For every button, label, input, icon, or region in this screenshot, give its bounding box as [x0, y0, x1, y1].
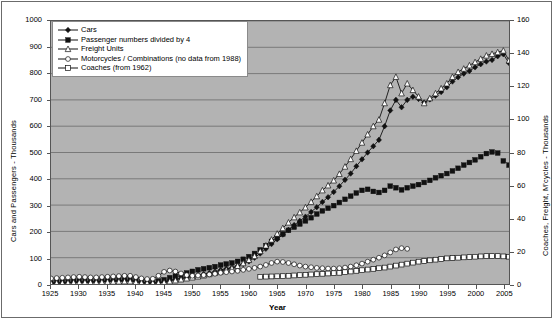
y-axis-left-tick-label: 300	[8, 201, 42, 211]
y-axis-left-tick-label: 400	[8, 174, 42, 184]
y-axis-right-tick-mark	[510, 86, 514, 87]
x-axis-tick-mark	[448, 285, 449, 289]
y-axis-left-tick-label: 900	[8, 42, 42, 52]
y-axis-right-tick-mark	[510, 186, 514, 187]
y-axis-right-tick-mark	[510, 20, 514, 21]
x-axis-tick-mark	[220, 285, 221, 289]
legend-item-label: Passenger numbers divided by 4	[81, 35, 190, 45]
legend-item: Passenger numbers divided by 4	[57, 35, 241, 45]
legend-item: Coaches (from 1962)	[57, 63, 241, 73]
x-axis-tick-mark	[50, 285, 51, 289]
legend-item-label: Cars	[81, 25, 97, 35]
x-axis-title: Year	[0, 303, 555, 312]
y-axis-right-tick-label: 140	[517, 48, 551, 58]
legend: CarsPassenger numbers divided by 4Freigh…	[52, 21, 248, 77]
y-axis-right-tick-label: 100	[517, 114, 551, 124]
x-axis-tick-mark	[107, 285, 108, 289]
y-axis-right-tick-mark	[510, 219, 514, 220]
legend-item-label: Freight Units	[81, 44, 124, 54]
y-axis-right-tick-label: 160	[517, 15, 551, 25]
y-axis-right-tick-label: 80	[517, 148, 551, 158]
x-axis-tick-mark	[391, 285, 392, 289]
x-axis-tick-label: 2005	[484, 289, 524, 299]
x-axis-tick-mark	[164, 285, 165, 289]
y-axis-left-tick-label: 500	[8, 148, 42, 158]
x-axis-tick-mark	[78, 285, 79, 289]
legend-marker-open-square-icon	[57, 63, 79, 73]
x-axis-tick-mark	[306, 285, 307, 289]
y-axis-right-tick-mark	[510, 153, 514, 154]
y-axis-right-tick-mark	[510, 285, 514, 286]
y-axis-left-tick-label: 100	[8, 254, 42, 264]
y-axis-right-tick-label: 120	[517, 81, 551, 91]
legend-marker-filled-square-icon	[57, 35, 79, 45]
y-axis-left-tick-label: 800	[8, 68, 42, 78]
y-axis-left-tick-label: 600	[8, 121, 42, 131]
x-axis-tick-mark	[504, 285, 505, 289]
legend-item: Motorcycles / Combinations (no data from…	[57, 54, 241, 64]
x-axis-tick-mark	[249, 285, 250, 289]
y-axis-right-tick-mark	[510, 119, 514, 120]
legend-marker-open-circle-icon	[57, 54, 79, 64]
y-axis-right-tick-mark	[510, 252, 514, 253]
x-axis-tick-mark	[192, 285, 193, 289]
x-axis-tick-mark	[419, 285, 420, 289]
x-axis-tick-mark	[362, 285, 363, 289]
x-axis-tick-mark	[277, 285, 278, 289]
legend-item: Freight Units	[57, 44, 241, 54]
y-axis-left-tick-label: 200	[8, 227, 42, 237]
legend-item-label: Coaches (from 1962)	[81, 63, 151, 73]
x-axis-tick-mark	[476, 285, 477, 289]
y-axis-left-tick-label: 1000	[8, 15, 42, 25]
legend-item-label: Motorcycles / Combinations (no data from…	[81, 54, 241, 64]
y-axis-right-tick-mark	[510, 53, 514, 54]
chart-root: Cars and Passengers - Thousands Coaches,…	[0, 0, 555, 321]
legend-item: Cars	[57, 25, 241, 35]
legend-marker-open-triangle-icon	[57, 44, 79, 54]
y-axis-right-tick-label: 40	[517, 214, 551, 224]
y-axis-right-tick-label: 20	[517, 247, 551, 257]
x-axis-tick-mark	[334, 285, 335, 289]
y-axis-right-tick-label: 60	[517, 181, 551, 191]
y-axis-left-tick-label: 700	[8, 95, 42, 105]
x-axis-tick-mark	[135, 285, 136, 289]
legend-marker-filled-diamond-icon	[57, 25, 79, 35]
